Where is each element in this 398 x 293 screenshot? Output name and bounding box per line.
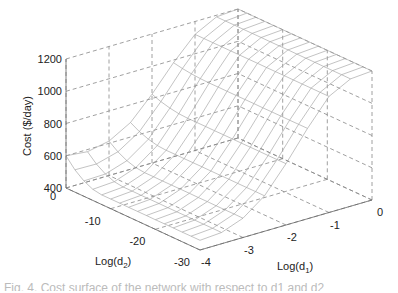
svg-text:-20: -20 — [129, 235, 145, 247]
z-axis-label: Cost ($/day) — [21, 96, 33, 156]
svg-text:-30: -30 — [174, 256, 190, 268]
svg-text:600: 600 — [44, 150, 62, 162]
svg-text:1200: 1200 — [38, 53, 62, 65]
figure-caption: Fig. 4. Cost surface of the network with… — [4, 281, 398, 291]
svg-text:0: 0 — [377, 206, 383, 218]
svg-text:-3: -3 — [244, 244, 254, 256]
svg-text:-10: -10 — [85, 215, 101, 227]
svg-text:-1: -1 — [330, 219, 340, 231]
svg-text:800: 800 — [44, 118, 62, 130]
x-axis-label: Log(d1) — [277, 260, 313, 275]
y-axis-label: Log(d2) — [95, 255, 131, 270]
svg-text:1000: 1000 — [38, 85, 62, 97]
tick-labels: 400600800100012000-10-20-30-4-3-2-10 — [38, 53, 384, 268]
surface-mesh — [66, 9, 372, 240]
svg-text:-2: -2 — [287, 231, 297, 243]
svg-text:-4: -4 — [201, 256, 211, 268]
svg-text:0: 0 — [50, 190, 56, 202]
